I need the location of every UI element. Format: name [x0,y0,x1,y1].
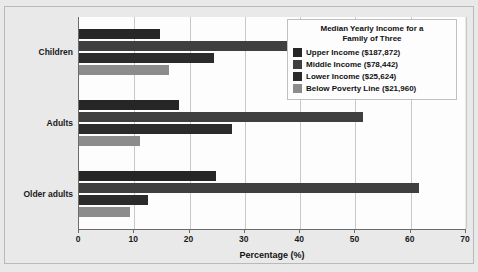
x-axis-tick-label: 20 [184,234,193,244]
x-axis-tick-label: 70 [460,234,469,244]
legend-item-label: Middle Income ($78,442) [306,60,398,69]
x-axis-tick [354,229,355,233]
x-axis-tick-label: 60 [405,234,414,244]
bar [79,65,169,75]
x-axis-tick [465,229,466,233]
bar [79,195,148,205]
bar [79,53,214,63]
bar [79,171,216,181]
legend-color-swatch [293,72,302,81]
x-axis-tick [78,229,79,233]
x-axis-tick [244,229,245,233]
legend-color-swatch [293,60,302,69]
x-axis-line [78,229,466,230]
gridline [466,17,467,229]
bar [79,100,179,110]
y-axis-tick-labels: ChildrenAdultsOlder adults [0,0,73,272]
legend-color-swatch [293,48,302,57]
chart-legend: Median Yearly Income for a Family of Thr… [287,19,457,100]
x-axis-tick [410,229,411,233]
x-axis-tick-label: 30 [239,234,248,244]
legend-items: Upper Income ($187,872)Middle Income ($7… [293,46,451,94]
bar [79,136,140,146]
bar [79,29,160,39]
bar [79,112,363,122]
x-axis-tick-label: 40 [294,234,303,244]
legend-item: Lower Income ($25,624) [293,70,451,82]
legend-title-line-2: Family of Three [293,34,451,44]
bar [79,41,295,51]
x-axis-tick [189,229,190,233]
y-axis-tick-label: Children [39,47,73,57]
x-axis-tick-label: 50 [350,234,359,244]
x-axis-tick [133,229,134,233]
legend-title-line-1: Median Yearly Income for a [293,24,451,34]
x-axis-tick-label: 0 [76,234,81,244]
bar [79,124,232,134]
y-axis-tick-label: Adults [47,118,73,128]
legend-item: Upper Income ($187,872) [293,46,451,58]
legend-item-label: Upper Income ($187,872) [306,48,400,57]
x-axis-title: Percentage (%) [78,250,466,260]
legend-item-label: Lower Income ($25,624) [306,72,396,81]
chart-figure: 010203040506070 Percentage (%) ChildrenA… [0,0,478,272]
y-axis-tick-label: Older adults [23,189,73,199]
legend-title: Median Yearly Income for a Family of Thr… [293,24,451,44]
legend-item: Middle Income ($78,442) [293,58,451,70]
x-axis-tick-label: 10 [129,234,138,244]
legend-color-swatch [293,84,302,93]
legend-item: Below Poverty Line ($21,960) [293,82,451,94]
bar [79,183,419,193]
legend-item-label: Below Poverty Line ($21,960) [306,84,416,93]
x-axis-tick [299,229,300,233]
bar [79,207,130,217]
